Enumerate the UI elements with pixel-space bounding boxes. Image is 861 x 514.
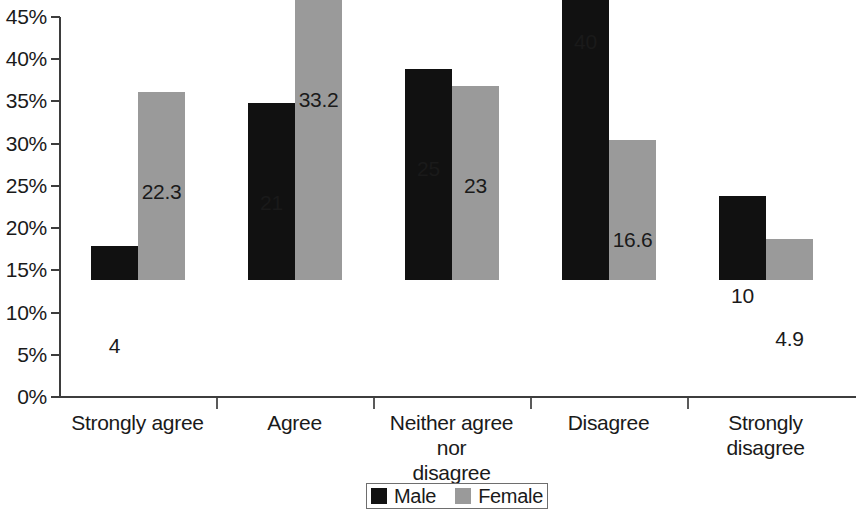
x-axis-line <box>59 396 856 398</box>
bar-chart: 0%5%10%15%20%25%30%35%40%45% 422.32133.2… <box>0 0 861 514</box>
legend-item-male: Male <box>371 486 436 506</box>
x-axis-category-label: Strongly disagree <box>687 410 844 460</box>
bar-value-label: 10 <box>705 285 780 306</box>
legend-item-female: Female <box>455 486 543 506</box>
bar-value-label: 22.3 <box>124 181 199 202</box>
bar-value-label: 33.2 <box>281 89 356 110</box>
bar-value-label: 4.9 <box>752 328 827 349</box>
chart-legend: Male Female <box>366 483 548 509</box>
bar-female <box>295 0 342 280</box>
x-axis-category-label: Strongly agree <box>59 410 216 435</box>
plot-area: 422.32133.225234016.6104.9 <box>0 0 861 397</box>
x-axis-separator-tick <box>530 398 532 409</box>
x-axis-category-label-line: Agree <box>216 410 373 435</box>
bar-female <box>766 239 813 280</box>
bar-male <box>719 196 766 280</box>
x-axis-category-label: Agree <box>216 410 373 435</box>
bar-value-label: 40 <box>548 31 623 52</box>
x-axis-separator-tick <box>687 398 689 409</box>
bar-female <box>609 140 656 280</box>
legend-label-male: Male <box>394 486 436 506</box>
x-axis-category-label: Neither agree nordisagree <box>373 410 530 485</box>
x-axis-category-label: Disagree <box>530 410 687 435</box>
x-axis-category-label-line: disagree <box>373 460 530 485</box>
bar-value-label: 4 <box>77 335 152 356</box>
legend-swatch-male-icon <box>371 488 387 504</box>
bar-value-label: 16.6 <box>595 229 670 250</box>
x-axis-category-label-line: Strongly agree <box>59 410 216 435</box>
x-axis-separator-tick <box>216 398 218 409</box>
x-axis-category-label-line: Neither agree nor <box>373 410 530 460</box>
x-axis-category-label-line: Strongly disagree <box>687 410 844 460</box>
bar-value-label: 23 <box>438 175 513 196</box>
legend-label-female: Female <box>478 486 543 506</box>
x-axis-separator-tick <box>373 398 375 409</box>
legend-swatch-female-icon <box>455 488 471 504</box>
bar-male <box>91 246 138 280</box>
x-axis-category-label-line: Disagree <box>530 410 687 435</box>
